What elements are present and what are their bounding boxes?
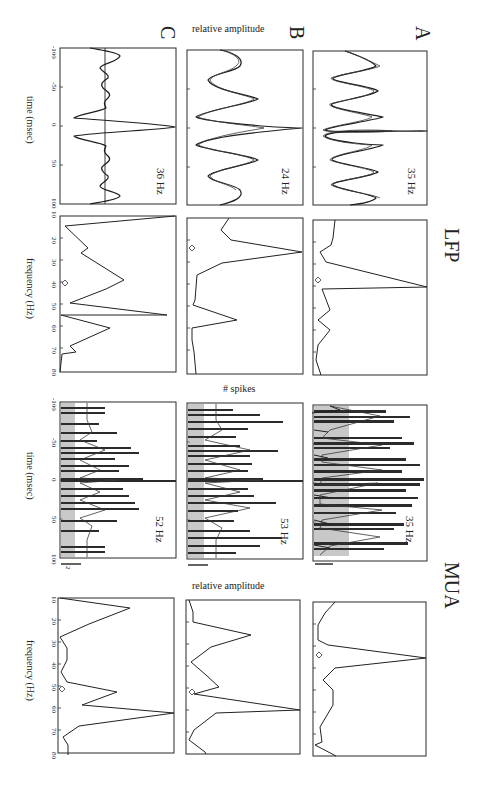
lfp-c-frequency-label: 36 Hz xyxy=(155,168,167,195)
tick-label: 50 xyxy=(50,160,58,168)
tick-label: -50 xyxy=(50,82,58,92)
tick-label: 40 xyxy=(50,281,58,289)
tick-label: 50 xyxy=(50,516,58,524)
tick-label: 0 xyxy=(50,123,58,127)
tick-label: 0 xyxy=(50,478,58,482)
axis-label-frequency-mua: frequency (Hz) xyxy=(24,640,36,701)
tick-label: 20 xyxy=(50,237,58,245)
panel-label-c: C xyxy=(157,26,179,39)
freq-tick-labels-mua: 10 20 30 40 50 60 70 80 xyxy=(50,596,58,760)
mua-c-peak-marker-icon xyxy=(59,686,65,692)
lfp-b-frequency-label: 24 Hz xyxy=(280,168,292,195)
axis-label-frequency-lfp: frequency (Hz) xyxy=(24,258,36,319)
tick-label: 20 xyxy=(50,618,58,626)
lfp-c-spectrum-trace xyxy=(60,216,175,372)
axis-label-mua-relative-amplitude: relative amplitude xyxy=(192,580,265,591)
tick-label: 70 xyxy=(50,347,58,355)
axis-label-time-mua: time (msec) xyxy=(24,452,36,499)
tick-label: -100 xyxy=(50,46,58,59)
axis-label-lfp-relative-amplitude: relative amplitude xyxy=(192,23,265,34)
axis-label-mua-spikes: # spikes xyxy=(223,383,256,394)
panel-label-a: A xyxy=(412,26,434,41)
tick-label: 60 xyxy=(50,325,58,333)
mua-c-frequency-label: 52 Hz xyxy=(154,516,166,543)
lfp-a-spectrum-trace xyxy=(316,220,427,375)
panel-b-lfp-spectrum xyxy=(187,218,303,374)
panel-c-mua-spectrum xyxy=(58,598,174,753)
tick-label: 60 xyxy=(50,706,58,714)
tick-label: 50 xyxy=(50,303,58,311)
tick-label: 10 xyxy=(50,211,58,219)
mua-a-frequency-label: 35 Hz xyxy=(404,516,416,543)
tick-label: 100 xyxy=(50,554,58,565)
section-label-lfp: LFP xyxy=(441,228,463,262)
tick-label: 70 xyxy=(50,728,58,736)
lfp-b-peak-marker-icon xyxy=(189,245,195,251)
section-label-mua: MUA xyxy=(441,562,463,609)
lfp-a-gabor-trace xyxy=(323,51,392,198)
mua-a-spectrum-trace xyxy=(315,602,426,756)
tick-label: 10 xyxy=(50,596,58,604)
axis-label-time-lfp: time (msec) xyxy=(24,96,36,143)
panel-b-mua-spectrum xyxy=(186,600,300,754)
time-tick-labels-mua: -100 -50 0 50 100 xyxy=(50,398,58,565)
tick-label: 30 xyxy=(50,640,58,648)
tick-label: 50 xyxy=(50,684,58,692)
panel-a-lfp-spectrum xyxy=(313,220,427,375)
tick-label: 30 xyxy=(50,259,58,267)
mua-a-peak-marker-icon xyxy=(316,652,322,658)
time-tick-labels-lfp: -100 -50 0 50 100 xyxy=(50,46,58,209)
lfp-a-peak-marker-icon xyxy=(315,277,321,283)
figure-canvas: LFP MUA A B C relative amplitude # spike… xyxy=(0,0,481,794)
tick-label: 80 xyxy=(50,752,58,760)
lfp-b-spectrum-trace xyxy=(192,218,302,374)
mua-scale-bar-label: 2 xyxy=(64,566,72,570)
tick-label: 80 xyxy=(50,369,58,377)
tick-label: -100 xyxy=(50,398,58,411)
freq-tick-labels-lfp: 10 20 30 40 50 60 70 80 xyxy=(50,211,58,377)
panel-c-lfp-spectrum xyxy=(60,216,176,372)
mua-b-spectrum-trace xyxy=(189,600,300,754)
mua-c-spectrum-trace xyxy=(60,598,174,755)
tick-label: 100 xyxy=(50,198,58,209)
tick-label: 40 xyxy=(50,662,58,670)
panel-a-mua-spectrum xyxy=(313,602,426,756)
tick-label: -50 xyxy=(50,438,58,448)
lfp-a-frequency-label: 35 Hz xyxy=(406,168,418,195)
mua-b-frequency-label: 53 Hz xyxy=(279,518,291,545)
lfp-c-peak-marker-icon xyxy=(62,280,68,286)
panel-label-b: B xyxy=(286,26,308,39)
